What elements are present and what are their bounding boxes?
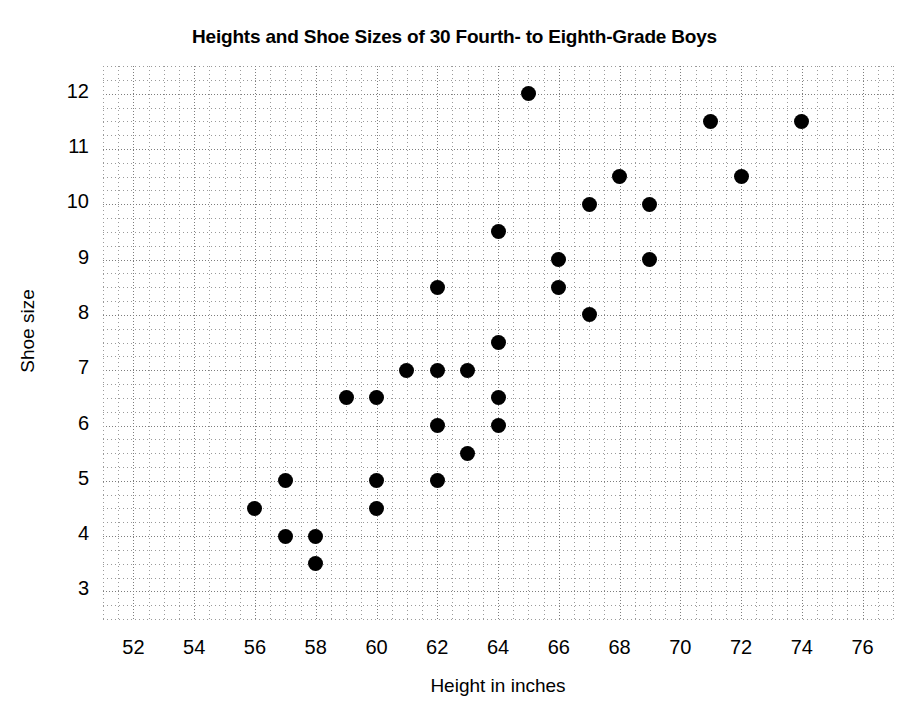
data-point — [430, 473, 445, 488]
x-tick-label: 76 — [833, 636, 893, 659]
x-tick-label: 60 — [347, 636, 407, 659]
data-point — [430, 280, 445, 295]
y-tick-label: 5 — [43, 467, 89, 490]
x-tick-label: 58 — [286, 636, 346, 659]
y-tick-label: 3 — [43, 577, 89, 600]
data-point — [582, 307, 597, 322]
data-point — [369, 390, 384, 405]
y-tick-label: 4 — [43, 522, 89, 545]
y-tick-label: 10 — [43, 190, 89, 213]
gridline-horizontal — [103, 619, 893, 620]
x-tick-label: 72 — [711, 636, 771, 659]
data-point — [491, 418, 506, 433]
data-point — [582, 197, 597, 212]
x-axis-title: Height in inches — [103, 675, 893, 697]
data-point — [399, 363, 414, 378]
data-point — [278, 473, 293, 488]
chart-title: Heights and Shoe Sizes of 30 Fourth- to … — [0, 26, 909, 48]
x-tick-label: 70 — [650, 636, 710, 659]
data-point — [460, 446, 475, 461]
data-point — [278, 529, 293, 544]
x-tick-label: 66 — [529, 636, 589, 659]
x-tick-label: 62 — [407, 636, 467, 659]
data-point — [642, 252, 657, 267]
x-tick-label: 64 — [468, 636, 528, 659]
data-point — [430, 418, 445, 433]
data-point — [460, 363, 475, 378]
data-point — [642, 197, 657, 212]
y-tick-label: 11 — [43, 135, 89, 158]
gridline-vertical — [893, 66, 894, 619]
x-tick-label: 56 — [225, 636, 285, 659]
data-point — [794, 114, 809, 129]
x-tick-label: 68 — [590, 636, 650, 659]
data-point — [612, 169, 627, 184]
data-point — [247, 501, 262, 516]
data-point — [734, 169, 749, 184]
x-tick-label: 54 — [164, 636, 224, 659]
data-point — [369, 501, 384, 516]
plot-area — [103, 66, 893, 619]
x-tick-label: 74 — [772, 636, 832, 659]
y-tick-label: 12 — [43, 80, 89, 103]
data-point — [491, 224, 506, 239]
y-axis-title: Shoe size — [17, 251, 39, 411]
data-point — [308, 529, 323, 544]
data-point — [339, 390, 354, 405]
data-point — [491, 335, 506, 350]
data-point — [369, 473, 384, 488]
x-tick-label: 52 — [103, 636, 163, 659]
y-tick-label: 9 — [43, 246, 89, 269]
scatter-plot-figure: Heights and Shoe Sizes of 30 Fourth- to … — [0, 0, 909, 725]
data-point — [430, 363, 445, 378]
data-point — [551, 252, 566, 267]
data-point — [551, 280, 566, 295]
data-point — [703, 114, 718, 129]
data-points-layer — [103, 66, 893, 619]
y-tick-label: 6 — [43, 412, 89, 435]
y-tick-label: 8 — [43, 301, 89, 324]
data-point — [521, 86, 536, 101]
data-point — [308, 556, 323, 571]
y-tick-label: 7 — [43, 356, 89, 379]
data-point — [491, 390, 506, 405]
